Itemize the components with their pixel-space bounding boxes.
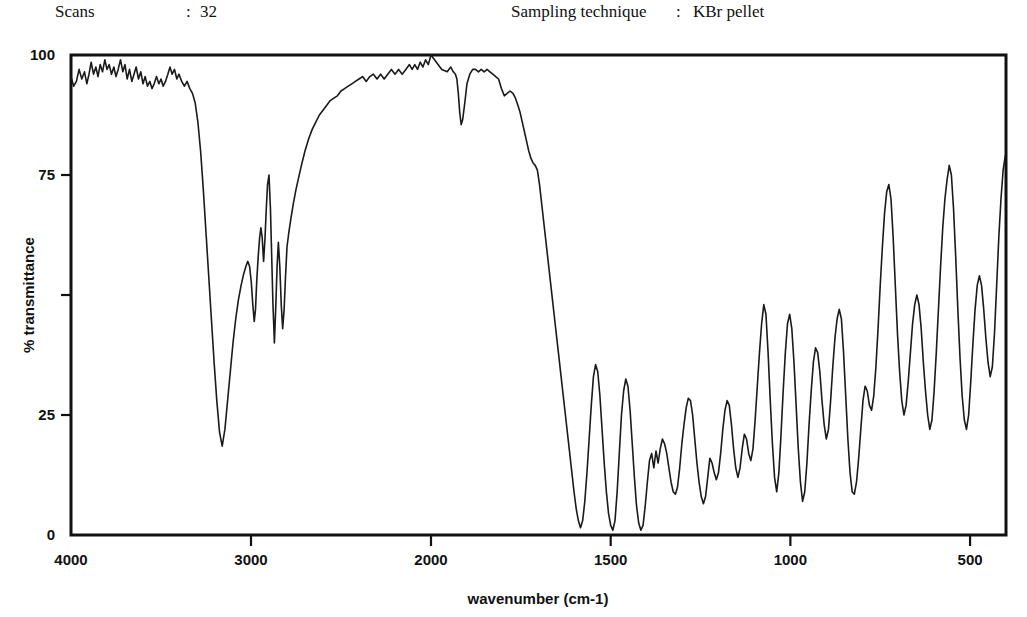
x-axis-tick-labels: 40003000200015001000500 bbox=[54, 551, 982, 568]
spectrum-trace bbox=[71, 55, 1005, 530]
plot-frame bbox=[71, 55, 1006, 535]
spectrum-svg: 02575100 40003000200015001000500 % trans… bbox=[0, 0, 1027, 617]
x-tick-label-1000: 1000 bbox=[774, 551, 807, 568]
x-axis-ticks bbox=[251, 535, 970, 546]
x-tick-label-4000: 4000 bbox=[54, 551, 87, 568]
y-tick-label-100: 100 bbox=[30, 46, 55, 63]
y-tick-label-0: 0 bbox=[47, 526, 55, 543]
y-axis-title: % transmittance bbox=[20, 237, 37, 353]
x-tick-label-1500: 1500 bbox=[594, 551, 627, 568]
spectrum-chart: 02575100 40003000200015001000500 % trans… bbox=[0, 0, 1027, 617]
x-axis-title: wavenumber (cm-1) bbox=[467, 590, 609, 607]
x-tick-label-2000: 2000 bbox=[414, 551, 447, 568]
y-tick-label-25: 25 bbox=[38, 406, 55, 423]
y-tick-label-75: 75 bbox=[38, 166, 55, 183]
x-tick-label-3000: 3000 bbox=[234, 551, 267, 568]
x-tick-label-500: 500 bbox=[958, 551, 983, 568]
ir-spectrum-page: Scans : 32 Sampling technique : KBr pell… bbox=[0, 0, 1027, 617]
